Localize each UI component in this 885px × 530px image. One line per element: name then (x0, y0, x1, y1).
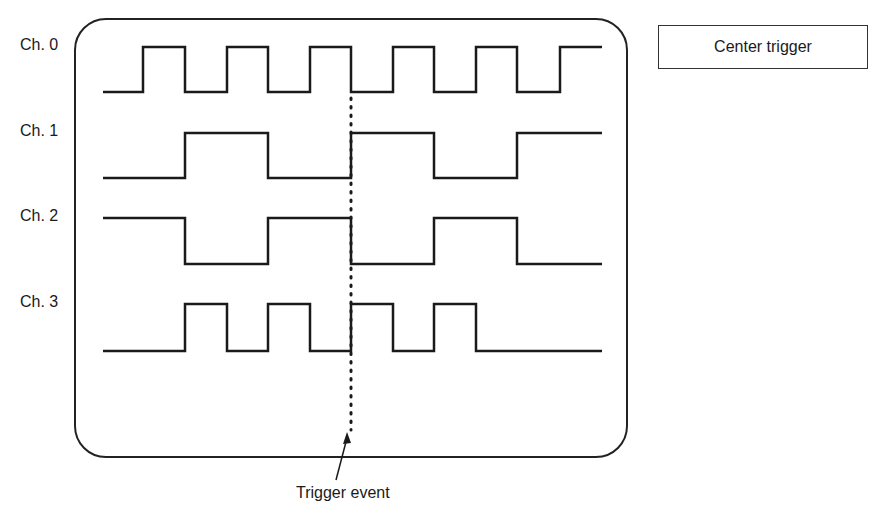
waveform-canvas (0, 0, 885, 530)
trigger-arrow-icon (336, 432, 351, 480)
trigger-event-label: Trigger event (296, 484, 390, 502)
trigger-mode-box: Center trigger (658, 25, 868, 69)
channel-1-waveform (103, 133, 602, 178)
trigger-mode-label: Center trigger (714, 38, 812, 56)
channel-0-waveform (103, 47, 602, 92)
channel-2-waveform (103, 218, 602, 264)
